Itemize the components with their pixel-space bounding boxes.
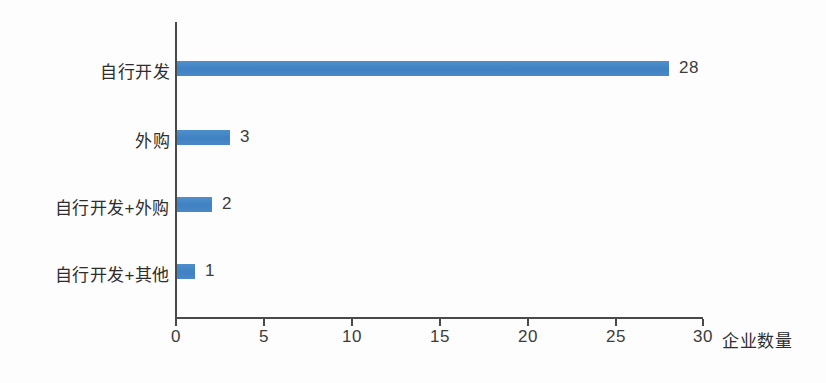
bar-value-3: 1: [205, 261, 215, 281]
x-axis-title: 企业数量: [722, 327, 792, 352]
x-axis-tick-0: [175, 319, 177, 326]
x-axis-tick-25: [615, 319, 617, 326]
bar-2: [177, 197, 212, 212]
bar-1: [177, 130, 230, 145]
x-axis-tick-10: [351, 319, 353, 326]
x-axis-tick-label-30: 30: [693, 327, 713, 347]
category-label-3: 自行开发+其他: [55, 261, 170, 286]
bar-value-2: 2: [222, 194, 232, 214]
bar-3: [177, 264, 195, 279]
bar-chart-figure: 0 5 10 15 20 25 30 企业数量 自行开发 外购 自行开发+外购 …: [0, 0, 826, 383]
x-axis-tick-5: [263, 319, 265, 326]
x-axis-tick-label-25: 25: [606, 327, 626, 347]
bar-0: [177, 61, 669, 76]
x-axis-tick-label-20: 20: [518, 327, 538, 347]
category-label-0: 自行开发: [100, 58, 170, 83]
x-axis-tick-label-10: 10: [342, 327, 362, 347]
category-label-1: 外购: [135, 127, 170, 152]
bar-value-0: 28: [679, 58, 699, 78]
category-label-2: 自行开发+外购: [55, 194, 170, 219]
x-axis-tick-30: [702, 319, 704, 326]
bar-value-1: 3: [240, 127, 250, 147]
x-axis-tick-label-5: 5: [259, 327, 269, 347]
x-axis-tick-20: [527, 319, 529, 326]
x-axis-tick-label-15: 15: [430, 327, 450, 347]
x-axis-tick-label-0: 0: [171, 327, 181, 347]
x-axis-tick-15: [439, 319, 441, 326]
